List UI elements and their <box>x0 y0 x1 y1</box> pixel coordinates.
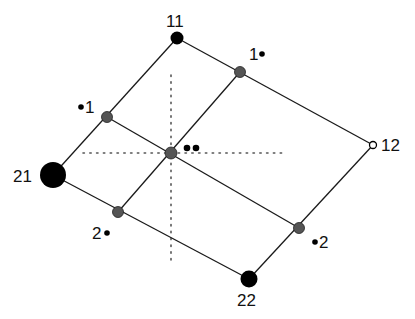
label-12: 12 <box>381 136 400 155</box>
node-1-top <box>235 67 246 78</box>
dot-marker-1-left <box>78 104 84 110</box>
edge-11-12 <box>177 38 373 145</box>
dot-marker-1-right <box>259 51 265 57</box>
dot-marker-2-left <box>104 230 110 236</box>
dot-marker-center-b <box>193 145 200 152</box>
node-center <box>165 147 177 159</box>
lattice-diagram: 11 12 21 22 1 1 2 2 <box>0 0 415 319</box>
dot-marker-center-a <box>184 145 191 152</box>
label-1-left: 1 <box>85 98 94 117</box>
label-11: 11 <box>166 12 184 31</box>
node-1-left <box>102 112 113 123</box>
node-11 <box>171 32 184 45</box>
edge-12-22 <box>249 145 373 279</box>
dot-marker-2-right <box>312 239 318 245</box>
edge-21-22 <box>53 175 249 279</box>
node-2-right <box>294 223 305 234</box>
node-22 <box>241 271 258 288</box>
label-1-right: 1 <box>249 45 258 64</box>
node-12 <box>370 142 377 149</box>
dotted-axes <box>83 75 287 265</box>
edge-11-21 <box>53 38 177 175</box>
label-2-left: 2 <box>92 224 101 243</box>
edge-1left-2right <box>107 117 299 228</box>
label-2-right: 2 <box>319 233 328 252</box>
label-22: 22 <box>237 291 256 310</box>
label-21: 21 <box>13 167 32 186</box>
node-2-left <box>113 207 124 218</box>
edge-1top-2left <box>118 72 240 212</box>
node-21 <box>40 162 66 188</box>
